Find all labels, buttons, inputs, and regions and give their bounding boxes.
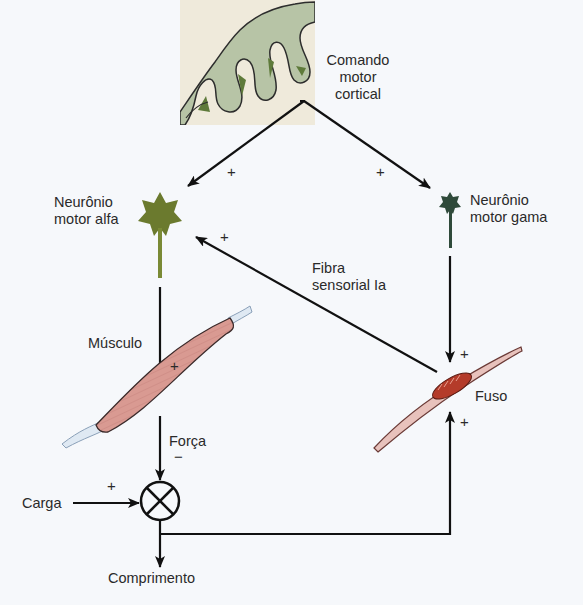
- length-spindle-sign: +: [460, 414, 469, 429]
- alpha-motor-neuron: [138, 192, 182, 278]
- ia-alpha-sign: +: [220, 229, 229, 244]
- muscle-illustration: [62, 306, 252, 448]
- alpha-motor-neuron-label: Neurônio motor alfa: [54, 194, 118, 228]
- spindle-label: Fuso: [475, 388, 507, 405]
- alpha-muscle-sign: +: [170, 358, 179, 373]
- muscle-label: Músculo: [88, 335, 142, 352]
- length-label: Comprimento: [108, 570, 195, 587]
- summing-junction: [141, 482, 179, 520]
- diagram-graphics: [0, 0, 583, 605]
- ia-sensory-fiber-label: Fibra sensorial Ia: [312, 260, 386, 294]
- gamma-spindle-sign: +: [460, 346, 469, 361]
- length-feedback-arrow: [160, 412, 450, 534]
- ia-fiber-arrow: [196, 237, 437, 372]
- gamma-motor-neuron: [439, 192, 461, 248]
- cortex-gamma-sign: +: [376, 164, 385, 179]
- gamma-motor-neuron-label: Neurônio motor gama: [470, 192, 547, 226]
- cortex-alpha-sign: +: [227, 164, 236, 179]
- cortex-illustration: [180, 0, 315, 125]
- load-label: Carga: [22, 495, 62, 512]
- force-sum-sign: −: [174, 449, 183, 464]
- load-sum-sign: +: [107, 478, 116, 493]
- cortical-motor-command-label: Comando motor cortical: [318, 52, 398, 103]
- stretch-reflex-diagram: Comando motor cortical Neurônio motor al…: [0, 0, 583, 605]
